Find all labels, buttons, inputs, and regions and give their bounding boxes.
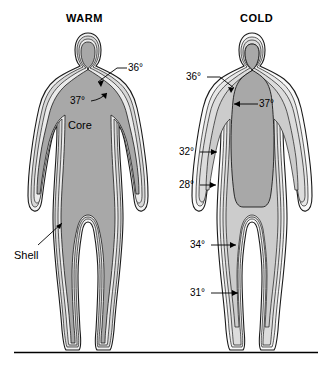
label-cold-calf-temp: 31° [190, 287, 205, 298]
label-cold-upper-arm-temp: 32° [179, 146, 194, 157]
label-cold-core-temp: 37° [259, 98, 274, 109]
cold-figure [192, 33, 312, 350]
figures-illustration [0, 0, 331, 366]
label-cold-forearm-temp: 28° [179, 179, 194, 190]
label-cold-shoulder-temp: 36° [186, 71, 201, 82]
label-core-zone: Core [68, 119, 92, 131]
label-warm-head-temp: 36° [128, 62, 143, 73]
label-cold-thigh-temp: 34° [190, 239, 205, 250]
arrowhead-cold-forearm [210, 182, 216, 188]
thermoregulation-diagram: WARM COLD [0, 0, 331, 366]
label-warm-core-temp: 37° [70, 95, 85, 106]
cold-core-region [231, 44, 274, 207]
warm-figure [28, 33, 148, 350]
label-shell-zone: Shell [14, 249, 38, 261]
